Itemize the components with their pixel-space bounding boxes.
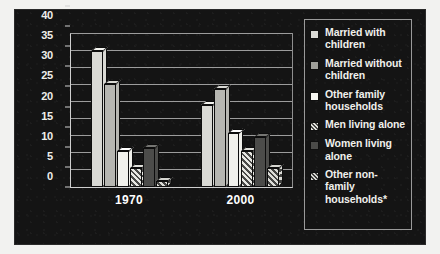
y-axis-tickmark (65, 106, 70, 107)
y-axis-label: 0 (47, 170, 53, 182)
y-axis-tickmark (65, 66, 70, 67)
legend-swatch-icon (310, 30, 319, 39)
y-axis-label: 10 (41, 130, 53, 142)
bar (104, 84, 116, 187)
y-axis-label: 20 (41, 90, 53, 102)
bar-face (214, 89, 226, 187)
y-axis-tickmark (65, 46, 70, 47)
bar-face (130, 168, 142, 187)
bar (130, 168, 142, 187)
chart-panel: 051015202530354045 19702000 Married with… (14, 9, 426, 245)
legend-swatch-icon (310, 122, 319, 131)
x-axis-label: 2000 (226, 193, 254, 207)
bar (228, 133, 240, 187)
bar-face (267, 168, 279, 187)
chart-screenshot: 051015202530354045 19702000 Married with… (0, 0, 440, 254)
legend: Married with childrenMarried without chi… (304, 19, 412, 230)
legend-item: Other family households (310, 88, 407, 113)
bar-face (228, 133, 240, 187)
legend-item-label: Married with children (325, 26, 407, 51)
bar (214, 89, 226, 187)
y-axis-label: 5 (47, 150, 53, 162)
legend-swatch-icon (310, 92, 319, 101)
bar-face (117, 151, 129, 187)
y-axis-tickmark (65, 166, 70, 167)
plot-frame (70, 33, 293, 188)
y-axis-tickmark (65, 126, 70, 127)
y-axis-tickmark (65, 86, 70, 87)
bar-face (91, 51, 103, 187)
legend-swatch-icon (310, 61, 319, 70)
x-axis-label: 1970 (115, 193, 143, 207)
legend-swatch-icon (310, 172, 319, 181)
bar (241, 151, 253, 187)
legend-item-label: Married without children (325, 57, 407, 82)
y-axis-tickmark (65, 6, 70, 7)
bar-face (254, 137, 266, 187)
legend-item-label: Other family households (325, 88, 407, 113)
legend-item-label: Other non-family households* (325, 168, 407, 205)
y-axis-label: 35 (41, 29, 53, 41)
bar (117, 151, 129, 187)
legend-item: Other non-family households* (310, 168, 407, 205)
y-axis-label: 15 (41, 110, 53, 122)
y-axis-label: 45 (41, 0, 53, 1)
y-axis-label: 25 (41, 69, 53, 81)
legend-item: Married with children (310, 26, 407, 51)
plot-area: 051015202530354045 19702000 (56, 28, 293, 209)
bar (201, 105, 213, 187)
bar-face (156, 181, 168, 187)
legend-item: Women living alone (310, 137, 407, 162)
legend-item: Men living alone (310, 118, 407, 131)
legend-item-label: Women living alone (325, 137, 407, 162)
legend-item-label: Men living alone (325, 118, 405, 130)
y-axis-tickmark (65, 187, 70, 188)
y-axis-tickmark (65, 146, 70, 147)
bar (91, 51, 103, 187)
bar (254, 137, 266, 187)
legend-item: Married without children (310, 57, 407, 82)
bar (267, 168, 279, 187)
bar-face (104, 84, 116, 187)
bar (156, 181, 168, 187)
bar-face (241, 151, 253, 187)
y-axis-tickmark (65, 26, 70, 27)
y-axis-label: 40 (41, 9, 53, 21)
y-axis-label: 30 (41, 49, 53, 61)
bar (143, 148, 155, 187)
bar-face (143, 148, 155, 187)
bar-group-container (71, 34, 292, 187)
bar-face (201, 105, 213, 187)
legend-swatch-icon (310, 141, 319, 150)
